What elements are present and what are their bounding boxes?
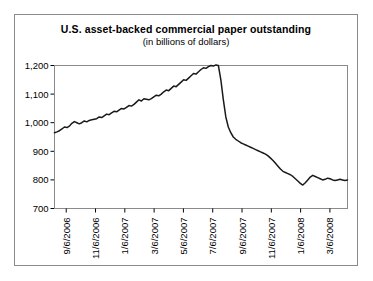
x-axis-tick-label: 1/6/2008 <box>295 218 306 255</box>
x-axis-tick-label: 11/6/2006 <box>90 218 101 260</box>
plot-area-frame <box>55 66 348 209</box>
y-axis-tick-label: 1,100 <box>25 89 49 100</box>
y-axis-tick-label: 700 <box>33 203 49 214</box>
x-axis-tick-label: 11/6/2007 <box>266 218 277 260</box>
x-axis-tick-label: 9/6/2007 <box>237 218 248 255</box>
y-axis-tick-label: 800 <box>33 174 49 185</box>
y-axis-tick-label: 1,200 <box>25 60 49 71</box>
y-axis-tick-label: 900 <box>33 146 49 157</box>
x-axis-tick-label: 3/6/2007 <box>149 218 160 255</box>
y-axis-tick-marks <box>51 66 55 209</box>
x-axis-tick-marks <box>66 209 330 213</box>
chart-figure: U.S. asset-backed commercial paper outst… <box>14 14 358 266</box>
y-axis-tick-label: 1,000 <box>25 117 49 128</box>
x-axis-tick-label: 5/6/2007 <box>178 218 189 255</box>
data-series-line <box>55 65 348 185</box>
x-axis-tick-label: 3/6/2008 <box>324 218 335 255</box>
x-axis-tick-label: 9/6/2006 <box>61 218 72 255</box>
x-axis-tick-labels: 9/6/200611/6/20061/6/20073/6/20075/6/200… <box>61 218 336 260</box>
x-axis-tick-label: 1/6/2007 <box>119 218 130 255</box>
line-chart-plot: 7008009001,0001,1001,200 9/6/200611/6/20… <box>15 15 359 267</box>
x-axis-tick-label: 7/6/2007 <box>207 218 218 255</box>
y-axis-tick-labels: 7008009001,0001,1001,200 <box>25 60 49 214</box>
